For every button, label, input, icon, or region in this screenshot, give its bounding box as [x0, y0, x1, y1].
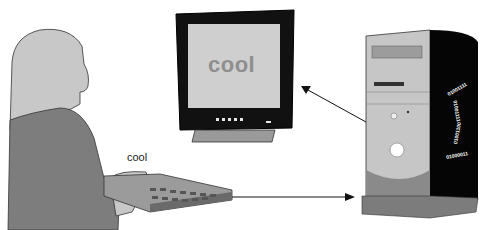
diagram-canvas: cool cool 01001111 01001111 01001100 010… [0, 0, 486, 230]
arrow-keyboard-to-tower [232, 193, 355, 201]
arrow-tower-to-monitor [301, 86, 366, 122]
binary-ring-text: 01001111 01001111 01001100 01000011 [439, 78, 475, 168]
typed-word-label: cool [127, 151, 147, 163]
diagram-artwork [0, 0, 486, 230]
binary-byte-4: 01000011 [437, 141, 476, 169]
monitor-screen-text: cool [208, 52, 255, 78]
